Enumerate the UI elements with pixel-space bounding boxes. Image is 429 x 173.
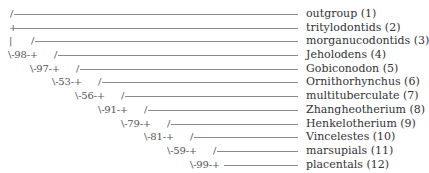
branch-connector: /	[144, 103, 147, 117]
branch-line	[224, 165, 298, 166]
tree-row: \-59-+/marsupials (11)	[0, 144, 401, 158]
branch-connector: /	[213, 144, 216, 158]
tree-row: |/morganucodontids (3)	[0, 34, 401, 48]
taxon-label: marsupials (11)	[306, 144, 393, 158]
branch-connector: /	[190, 130, 193, 144]
node-support-value: \-56-+	[75, 89, 105, 103]
node-support-value: \-99-+	[190, 158, 220, 172]
tree-row: \-53-+/Ornithorhynchus (6)	[0, 75, 401, 89]
taxon-label: Henkelotherium (9)	[306, 117, 416, 131]
branch-line	[35, 41, 298, 42]
branch-connector: /	[76, 62, 79, 76]
tree-row: +tritylodontids (2)	[0, 21, 401, 35]
node-support-value: \-53-+	[52, 75, 82, 89]
branch-line	[80, 69, 298, 70]
node-support-value: \-97-+	[30, 62, 60, 76]
branch-connector: /	[54, 48, 57, 62]
branch-line	[14, 14, 298, 15]
branch-connector: /	[31, 34, 34, 48]
branch-line	[194, 137, 298, 138]
taxon-label: outgroup (1)	[306, 7, 376, 21]
taxon-label: Zhangheotherium (8)	[306, 103, 425, 117]
tree-row: \-91-+/Zhangheotherium (8)	[0, 103, 401, 117]
taxon-label: placentals (12)	[306, 158, 389, 172]
node-support-value: |	[9, 34, 12, 48]
taxon-label: tritylodontids (2)	[306, 21, 400, 35]
tree-row: \-56-+/multituberculate (7)	[0, 89, 401, 103]
branch-line	[125, 96, 298, 97]
branch-connector: /	[167, 117, 170, 131]
taxon-label: morganucodontids (3)	[306, 34, 429, 48]
taxon-label: Ornithorhynchus (6)	[306, 75, 420, 89]
tree-row: \-81-+/Vincelestes (10)	[0, 130, 401, 144]
tree-row: \-99-+placentals (12)	[0, 158, 401, 172]
branch-line	[148, 110, 298, 111]
branch-line	[217, 151, 298, 152]
tree-row: \-79-+/Henkelotherium (9)	[0, 117, 401, 131]
tree-row: \-98-+/Jeholodens (4)	[0, 48, 401, 62]
branch-line	[58, 55, 298, 56]
taxon-label: multituberculate (7)	[306, 89, 419, 103]
tree-row: \-97-+/Gobiconodon (5)	[0, 62, 401, 76]
tree-row: /outgroup (1)	[0, 7, 401, 21]
taxon-label: Jeholodens (4)	[306, 48, 386, 62]
node-support-value: \-91-+	[98, 103, 128, 117]
branch-connector: /	[10, 7, 13, 21]
branch-line	[171, 124, 298, 125]
taxon-label: Gobiconodon (5)	[306, 62, 398, 76]
node-support-value: \-98-+	[8, 48, 38, 62]
node-support-value: \-79-+	[121, 117, 151, 131]
node-support-value: \-59-+	[167, 144, 197, 158]
branch-line	[13, 28, 298, 29]
node-support-value: \-81-+	[144, 130, 174, 144]
taxon-label: Vincelestes (10)	[306, 130, 395, 144]
branch-connector: /	[121, 89, 124, 103]
branch-connector: /	[98, 75, 101, 89]
branch-line	[102, 82, 298, 83]
